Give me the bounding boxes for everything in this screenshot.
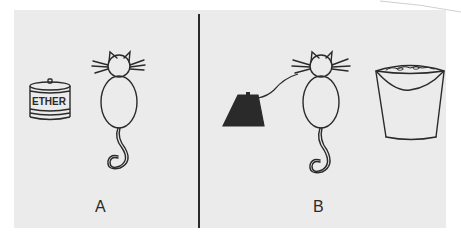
black-block-icon xyxy=(223,92,264,126)
cat-icon xyxy=(292,52,350,173)
ether-label: ETHER xyxy=(32,96,67,107)
cord-line xyxy=(258,74,298,98)
panel-b-drawing xyxy=(200,10,446,228)
panel-a: ETHER xyxy=(14,10,198,228)
ether-can-icon: ETHER xyxy=(30,79,70,120)
cat-icon xyxy=(92,52,145,169)
panel-b-label: B xyxy=(313,198,324,216)
panel-a-label: A xyxy=(95,198,106,216)
panel-a-drawing: ETHER xyxy=(14,10,198,228)
experiment-figure: ETHER xyxy=(14,10,446,228)
panel-b: B xyxy=(200,10,446,228)
bucket-icon xyxy=(376,66,444,140)
